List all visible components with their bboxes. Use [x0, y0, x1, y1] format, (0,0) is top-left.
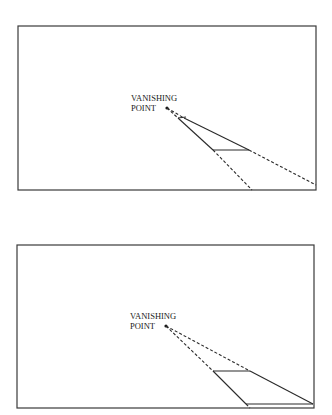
panel-bottom: VANISHING POINT [17, 245, 314, 408]
dashed-upper-line [166, 326, 250, 371]
vanishing-label-line2: POINT [131, 103, 157, 113]
solid-upper-edge [184, 118, 249, 150]
vanishing-label-line1: VANISHING [130, 311, 176, 321]
vanishing-label-line1: VANISHING [131, 93, 177, 103]
solid-lower-edge [213, 371, 246, 404]
dashed-lower-stub [246, 404, 250, 408]
dashed-lower-extension [213, 150, 252, 190]
perspective-diagram: VANISHING POINT VANISHING POINT [0, 0, 332, 415]
solid-upper-edge [250, 371, 313, 404]
solid-lower-edge [178, 118, 213, 150]
panel-top: VANISHING POINT [18, 26, 316, 190]
dashed-upper-extension [249, 150, 316, 185]
vanishing-label-line2: POINT [130, 321, 156, 331]
dashed-lower-line [166, 326, 213, 371]
dashed-upper-near [167, 108, 184, 118]
